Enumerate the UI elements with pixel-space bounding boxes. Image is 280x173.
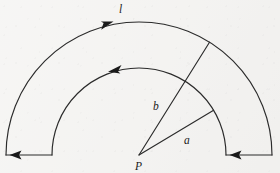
inner-arc-arrow-icon — [108, 65, 122, 74]
radius-line-b — [139, 42, 210, 155]
label-center-point-p: P — [134, 160, 142, 172]
label-inner-radius-a: a — [184, 134, 190, 146]
outer-arc — [6, 22, 272, 155]
label-arc-length-l: l — [119, 3, 122, 15]
radius-line-a — [139, 110, 214, 155]
annulus-sector-drawing: l b a P — [0, 0, 280, 173]
inner-arc — [52, 68, 226, 155]
outer-arc-arrow-icon — [101, 21, 114, 29]
label-outer-radius-b: b — [153, 100, 159, 112]
geometry-figure: l b a P — [0, 0, 280, 173]
